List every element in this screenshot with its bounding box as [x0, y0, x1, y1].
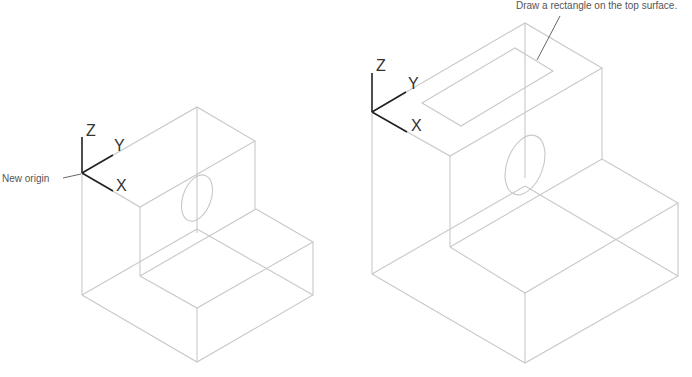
left-ucs-icon [82, 137, 113, 191]
right-callout-leader [537, 16, 560, 60]
right-block-wireframe [372, 23, 678, 363]
right-axis-x-label: X [411, 118, 422, 134]
left-axis-y-label: Y [114, 138, 125, 154]
top-surface-rectangle [422, 48, 553, 126]
right-axis-z-label: Z [376, 58, 386, 74]
left-callout-leader [63, 174, 81, 178]
left-callout-text: New origin [2, 173, 49, 184]
drawing-canvas [0, 0, 692, 377]
left-axis-z-label: Z [86, 123, 96, 139]
right-callout-text: Draw a rectangle on the top surface. [516, 0, 677, 11]
right-ucs-icon [372, 73, 407, 132]
right-axis-y-label: Y [408, 76, 419, 92]
left-axis-x-label: X [116, 178, 127, 194]
